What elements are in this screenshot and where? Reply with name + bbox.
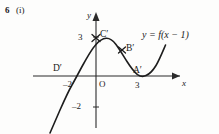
y-axis-arrowhead: [93, 12, 100, 21]
y-tick-label-neg2: –2: [72, 101, 81, 111]
x-axis-label: x: [182, 78, 186, 88]
function-equation-label: y = f(x − 1): [142, 30, 189, 40]
y-tick-label-3: 3: [78, 32, 83, 42]
y-axis-label: y: [87, 10, 91, 20]
point-label-d-prime: D′: [53, 63, 62, 73]
point-label-a-prime: A′: [133, 65, 142, 75]
point-label-b-prime: B′: [126, 43, 134, 53]
graph-canvas: [0, 0, 219, 134]
origin-label: O: [99, 79, 106, 89]
x-tick-label-3: 3: [135, 80, 140, 90]
x-tick-label-neg2: –2: [63, 79, 72, 89]
point-label-c-prime: C′: [100, 29, 108, 39]
x-axis-arrowhead: [172, 73, 180, 80]
figure-root: 6 (i) y x O 3 –2 –2 3 C′ B′ A′ D′ y =: [0, 0, 219, 134]
